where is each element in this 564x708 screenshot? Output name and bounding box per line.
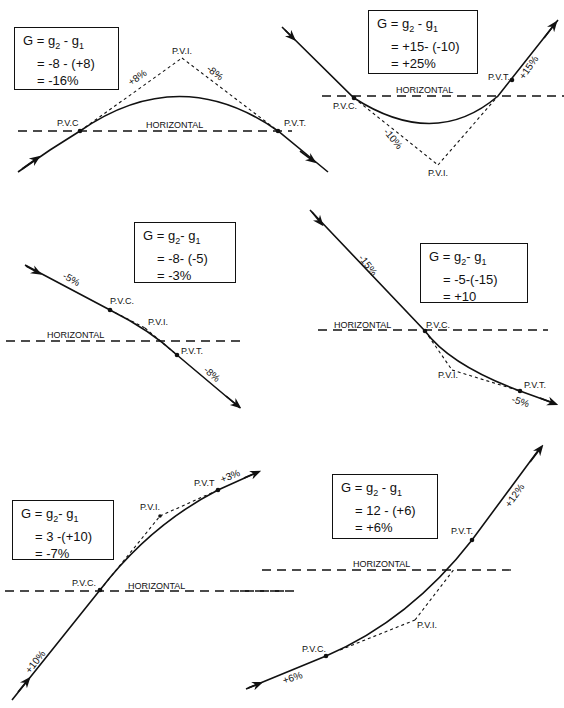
pvt-point [470, 538, 475, 543]
formula-line-1: G = g2- g1 [429, 248, 519, 271]
pvt-label: P.V.T. [284, 118, 306, 128]
formula-line-2: = 3 -(+10) [21, 528, 105, 545]
pvi-label: P.V.I. [140, 502, 160, 512]
arrow-icon [26, 266, 37, 272]
grade-g2: -8% [205, 63, 226, 83]
formula-line-3: = -16% [23, 72, 110, 89]
formula-box-crest-1: G = g2 - g1 = -8 - (+8) = -16% [14, 27, 119, 90]
formula-box-sag-3: G = g2 - g1 = 12 - (+6) = +6% [332, 474, 438, 539]
formula-line-2: = -8- (-5) [143, 250, 227, 267]
vertical-curves-diagram: P.V.C P.V.I. P.V.T. HORIZONTAL +8% -8% P… [0, 0, 564, 708]
tangent-g2 [415, 568, 455, 620]
horizontal-label: HORIZONTAL [146, 120, 203, 130]
pvi-label: P.V.I. [428, 168, 448, 178]
arrow-icon [226, 396, 237, 405]
formula-line-2: = -5-(-15) [429, 271, 519, 288]
formula-line-3: = +25% [377, 55, 469, 72]
pvc-label: P.V.C. [333, 101, 357, 111]
arrow-icon [244, 473, 256, 478]
arrow-icon [544, 25, 554, 38]
pvc-point [78, 129, 83, 134]
grade-g2: +3% [219, 467, 242, 485]
formula-box-crest-2: G = g2- g1 = -8- (-5) = -3% [134, 222, 236, 283]
formula-line-3: = +10 [429, 288, 519, 305]
grade-g1: -15% [356, 252, 379, 277]
formula-line-1: G = g2 - g1 [23, 32, 110, 55]
panel-sag-2: P.V.C. P.V.I. P.V.T. HORIZONTAL -15% -5% [310, 210, 556, 409]
formula-line-1: G = g2 - g1 [377, 15, 469, 38]
grade-g2: -5% [510, 393, 530, 409]
arrow-icon [285, 30, 292, 37]
vertical-curve [310, 210, 556, 404]
formula-line-2: = 12 - (+6) [341, 502, 429, 519]
pvt-point [518, 389, 523, 394]
pvi-label: P.V.I. [417, 620, 437, 630]
grade-g2: -8% [202, 364, 223, 384]
pvi-label: P.V.I. [148, 317, 168, 327]
pvc-label: P.V.C. [426, 320, 450, 330]
tangent-g1 [354, 98, 438, 165]
grade-g2: +12% [503, 482, 527, 510]
arrow-icon [22, 159, 36, 169]
pvc-point [324, 654, 329, 659]
grade-g1: -10% [381, 126, 405, 151]
horizontal-label: HORIZONTAL [334, 320, 391, 330]
formula-box-sag-1: G = g2 - g1 = +15- (-10) = +25% [368, 10, 478, 74]
formula-line-1: G = g2- g1 [21, 505, 105, 528]
formula-line-1: G = g2- g1 [143, 227, 227, 250]
pvc-point [352, 96, 357, 101]
pvc-point [98, 588, 103, 593]
pvc-label: P.V.C. [110, 296, 134, 306]
formula-box-sag-2: G = g2- g1 = -5-(-15) = +10 [420, 243, 528, 303]
pvc-label: P.V.C. [72, 578, 96, 588]
pvt-point [510, 78, 515, 83]
formula-line-3: = -3% [143, 267, 227, 284]
panel-crest-2: P.V.C. P.V.I. P.V.T. HORIZONTAL -5% -8% [6, 265, 240, 408]
arrow-icon [18, 681, 27, 692]
pvi-label: P.V.I. [438, 370, 458, 380]
pvt-label: P.V.T. [524, 380, 546, 390]
pvc-label: P.V.C [57, 118, 79, 128]
formula-box-crest-3: G = g2- g1 = 3 -(+10) = -7% [12, 500, 114, 560]
horizontal-label: HORIZONTAL [396, 85, 453, 95]
arrow-icon [530, 449, 540, 462]
formula-line-3: = -7% [21, 545, 105, 562]
vertical-curve [18, 97, 328, 173]
pvt-label: P.V.T. [488, 72, 510, 82]
grade-g1: +6% [281, 669, 304, 686]
pvi-point [158, 514, 162, 518]
arrow-icon [312, 212, 320, 222]
formula-line-2: = -8 - (+8) [23, 55, 110, 72]
pvt-point [216, 488, 221, 493]
arrow-icon [540, 398, 553, 403]
pvt-label: P.V.T [194, 478, 215, 488]
formula-line-2: = +15- (-10) [377, 38, 469, 55]
formula-line-1: G = g2 - g1 [341, 479, 429, 502]
pvt-point [175, 353, 180, 358]
horizontal-label: HORIZONTAL [47, 330, 104, 340]
tangent-g2 [438, 96, 498, 165]
pvt-point [276, 129, 281, 134]
arrow-icon [300, 151, 312, 160]
pvt-label: P.V.T. [181, 346, 203, 356]
horizontal-label: HORIZONTAL [128, 581, 185, 591]
pvc-label: P.V.C. [302, 644, 326, 654]
formula-line-3: = +6% [341, 519, 429, 536]
pvt-label: P.V.T. [451, 526, 473, 536]
arrow-icon [248, 684, 258, 688]
tangent-g1 [340, 620, 415, 650]
horizontal-label: HORIZONTAL [353, 559, 410, 569]
pvi-label: P.V.I. [172, 46, 192, 56]
pvc-point [108, 308, 113, 313]
